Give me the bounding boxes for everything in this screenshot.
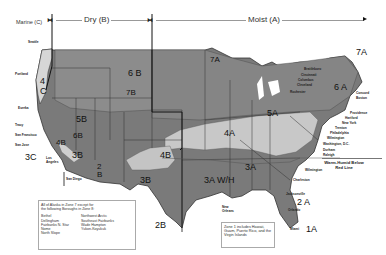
zone-label-2b-az: 2 B: [97, 163, 102, 179]
zone-label-2a: 2 A: [297, 197, 310, 207]
alaska-note-box: All of Alaska in Zone 7 except for the f…: [38, 200, 136, 250]
dry-header: Dry (B): [82, 15, 111, 25]
city-label: Raleigh: [323, 153, 335, 157]
divider-marker-icon: ⧓: [147, 17, 153, 23]
zone-label-4b-ca: 4B: [56, 138, 66, 148]
city-label: Jacksonville: [286, 192, 305, 196]
city-label: Boston: [356, 96, 367, 100]
city-label: Trenton: [335, 126, 347, 130]
zone-label-3b-tx: 3B: [140, 175, 151, 185]
city-label: Washington, D.C.: [323, 142, 349, 146]
red-line-marker: [322, 158, 382, 159]
zone-label-5a: 5A: [267, 108, 278, 118]
alaska-boroughs-col1: Bethel Dellingham Fairbanks N. Star Nome…: [41, 214, 69, 235]
zone-label-3c: 3C: [25, 152, 37, 162]
city-label: Charleston: [293, 178, 310, 182]
alaska-note-intro: All of Alaska in Zone 7 except for the f…: [41, 203, 99, 211]
zone-label-3a-wh: 3A W/H: [204, 175, 235, 185]
zone-label-6b: 6 B: [128, 68, 142, 78]
city-label: Tracy: [15, 123, 23, 127]
zone-label-5b: 5B: [76, 114, 87, 124]
city-label: Orlando: [288, 208, 300, 212]
zone-label-7a-mn: 7A: [210, 55, 220, 65]
zone-label-3b-ca: 3B: [72, 150, 83, 160]
zone-label-2b-tx: 2B: [155, 220, 166, 230]
marine-header: Marine (C): [14, 17, 44, 27]
zone-label-7b: 7B: [126, 88, 136, 98]
borough-item: North Slope: [41, 231, 69, 235]
zone1-note-text: Zone 1 includes Hawaii, Guam, Puerto Ric…: [224, 225, 272, 238]
city-label: San Francisco: [15, 133, 37, 137]
city-label: Portland: [15, 72, 28, 76]
borough-item: Yukon-Koyukuk: [81, 227, 114, 231]
city-label: Cincinnati: [301, 73, 316, 77]
city-label: San Diego: [66, 177, 82, 181]
city-label: Hartford: [345, 116, 358, 120]
zone-label-4c: 4 C: [40, 76, 47, 96]
zone-label-6b-sw: 6B: [73, 131, 83, 141]
city-label: Providence: [350, 111, 367, 115]
zone-label-3a: 3A: [245, 162, 256, 172]
city-label: New Orleans: [222, 205, 236, 213]
city-label: Brattleboro: [304, 67, 321, 71]
city-label: Cleveland: [297, 83, 312, 87]
zone-label-4b-nm: 4B: [160, 150, 171, 160]
arrow-right-icon: [363, 17, 367, 21]
city-label: Philadelphia: [330, 131, 349, 135]
city-label: Wilmington: [305, 168, 322, 172]
city-label: Rochester: [290, 90, 306, 94]
zone-label-7a-me: 7A: [356, 47, 367, 57]
alaska-boroughs-col2: Northwest Arctic Southeast Fairbanks Wad…: [81, 214, 114, 235]
city-label: San Jose: [15, 143, 29, 147]
zone-label-1a: 1A: [306, 224, 317, 234]
city-label: Los Angeles: [46, 156, 56, 164]
city-label: Wilmington: [327, 136, 344, 140]
moist-header: Moist (A): [246, 15, 282, 25]
city-label: Durham: [323, 148, 335, 152]
warm-humid-label: Warm-Humid Below Red Line: [322, 160, 366, 170]
city-label: New York: [342, 121, 356, 125]
zone-5a-6a-region: [152, 50, 358, 120]
zone-label-6a: 6 A: [334, 82, 347, 92]
city-label: Eureka: [18, 106, 29, 110]
zone1-note-box: Zone 1 includes Hawaii, Guam, Puerto Ric…: [221, 222, 275, 248]
city-label: Seattle: [28, 40, 38, 44]
city-label: Columbus: [298, 78, 314, 82]
divider-marker-icon: ⧓: [47, 17, 53, 23]
city-label: Concord: [356, 91, 369, 95]
zone-6b-region: [55, 50, 152, 112]
zone-label-4a: 4A: [224, 128, 235, 138]
city-label: Miami: [290, 227, 299, 231]
